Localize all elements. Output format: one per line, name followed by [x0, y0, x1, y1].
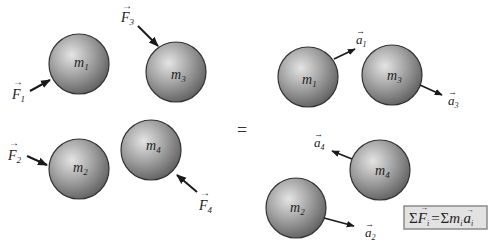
- sphere-m1-left: m1: [49, 34, 109, 94]
- sphere-m3-left: m3: [146, 42, 206, 102]
- sphere-m4-left: m4: [121, 120, 181, 180]
- svg-text:F3: F3: [120, 10, 135, 27]
- svg-text:→: →: [13, 76, 23, 87]
- force-arrow-f1: F1 →: [11, 76, 50, 104]
- sphere-m4-right: m4: [350, 140, 410, 200]
- svg-text:→: →: [467, 206, 474, 214]
- diagram-canvas: m1 m3 m2 m4 F1 → F3 → F2 → F4 → = m1: [0, 0, 491, 247]
- svg-text:ΣFi=Σmiai: ΣFi=Σmiai: [409, 210, 473, 228]
- svg-text:F1: F1: [11, 87, 25, 104]
- accel-arrow-a2: a2 →: [324, 218, 376, 242]
- svg-text:→: →: [356, 26, 365, 36]
- svg-text:→: →: [365, 219, 374, 229]
- sphere-m2-right: m2: [266, 178, 326, 238]
- sphere-m3-right: m3: [362, 45, 422, 105]
- sphere-m2-left: m2: [49, 139, 109, 199]
- force-arrow-f2: F2 →: [7, 137, 47, 165]
- svg-text:→: →: [200, 187, 210, 198]
- svg-text:F2: F2: [7, 148, 22, 165]
- force-arrow-f4: F4 →: [177, 175, 213, 215]
- accel-arrow-a3: a3 →: [420, 85, 459, 110]
- equation-box: ΣFi=Σmiai → →: [404, 203, 487, 229]
- svg-text:→: →: [314, 129, 323, 139]
- svg-text:→: →: [122, 0, 132, 11]
- sphere-m1-right: m1: [278, 47, 338, 107]
- svg-text:F4: F4: [198, 198, 213, 215]
- equals-sign: =: [237, 120, 247, 140]
- accel-arrow-a4: a4 →: [314, 129, 352, 159]
- svg-text:→: →: [9, 137, 19, 148]
- force-arrow-f3: F3 →: [120, 0, 158, 46]
- svg-text:→: →: [420, 203, 428, 212]
- accel-arrow-a1: a1 →: [334, 26, 367, 59]
- svg-text:→: →: [448, 87, 457, 97]
